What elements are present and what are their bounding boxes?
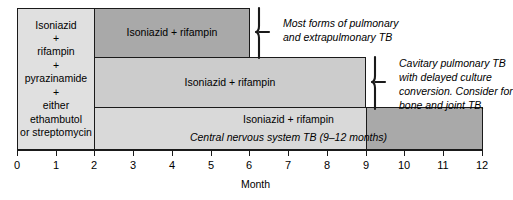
x-axis-title: Month	[0, 178, 511, 190]
x-axis-tick-2	[94, 150, 95, 156]
continuation-bar-cns-sublabel: Central nervous system TB (9–12 months)	[190, 131, 387, 144]
intensive-phase-line-3: rifampin	[37, 45, 74, 58]
x-axis-tick-10	[404, 150, 405, 156]
x-axis-tick-6	[249, 150, 250, 156]
annotation-cavitary-line-2: with delayed culture	[399, 71, 513, 85]
annotation-cavitary-line-3: conversion. Consider for	[399, 85, 513, 99]
x-axis-tick-5	[211, 150, 212, 156]
intensive-phase-line-8: ethambutol	[30, 113, 82, 126]
intensive-phase-line-9: or streptomycin	[20, 126, 92, 139]
continuation-bar-cns-label: Isoniazid + rifampin	[243, 113, 334, 126]
annotation-standard-line-1: Most forms of pulmonary	[283, 17, 399, 31]
brace-standard-icon	[255, 6, 281, 60]
x-axis-tick-label-1: 1	[44, 159, 68, 171]
x-axis-tick-label-6: 6	[237, 159, 261, 171]
x-axis-tick-7	[288, 150, 289, 156]
x-axis-tick-9	[366, 150, 367, 156]
intensive-phase-block: Isoniazid + rifampin + pyrazinamide + ei…	[17, 8, 95, 150]
x-axis-tick-3	[133, 150, 134, 156]
x-axis-tick-0	[17, 150, 18, 156]
x-axis-tick-label-12: 12	[470, 159, 494, 171]
x-axis-tick-4	[172, 150, 173, 156]
x-axis-tick-label-4: 4	[160, 159, 184, 171]
annotation-standard: Most forms of pulmonary and extrapulmona…	[283, 17, 399, 45]
x-axis-tick-1	[56, 150, 57, 156]
x-axis-tick-8	[327, 150, 328, 156]
intensive-phase-line-2: +	[53, 32, 59, 45]
x-axis-tick-label-10: 10	[392, 159, 416, 171]
intensive-phase-line-6: +	[53, 86, 59, 99]
x-axis-tick-11	[443, 150, 444, 156]
continuation-bar-standard: Isoniazid + rifampin	[94, 8, 250, 58]
continuation-bar-cavitary-label: Isoniazid + rifampin	[185, 76, 276, 89]
brace-cavitary-icon	[371, 55, 397, 111]
continuation-bar-standard-label: Isoniazid + rifampin	[127, 26, 218, 39]
intensive-phase-line-4: +	[53, 59, 59, 72]
x-axis-tick-label-7: 7	[276, 159, 300, 171]
x-axis-tick-12	[482, 150, 483, 156]
annotation-cavitary-line-4: bone and joint TB.	[399, 99, 513, 113]
annotation-cavitary: Cavitary pulmonary TB with delayed cultu…	[399, 57, 513, 113]
x-axis-tick-label-9: 9	[354, 159, 378, 171]
x-axis-tick-label-2: 2	[82, 159, 106, 171]
continuation-bar-cavitary: Isoniazid + rifampin	[94, 57, 366, 108]
x-axis-tick-label-5: 5	[199, 159, 223, 171]
x-axis-line	[17, 150, 483, 151]
x-axis-tick-label-0: 0	[5, 159, 29, 171]
intensive-phase-line-7: either	[43, 99, 69, 112]
x-axis-tick-label-8: 8	[315, 159, 339, 171]
annotation-standard-line-2: and extrapulmonary TB	[283, 31, 399, 45]
intensive-phase-line-1: Isoniazid	[35, 19, 76, 32]
intensive-phase-line-5: pyrazinamide	[25, 72, 87, 85]
annotation-cavitary-line-1: Cavitary pulmonary TB	[399, 57, 513, 71]
x-axis-tick-label-3: 3	[121, 159, 145, 171]
x-axis-tick-label-11: 11	[431, 159, 455, 171]
